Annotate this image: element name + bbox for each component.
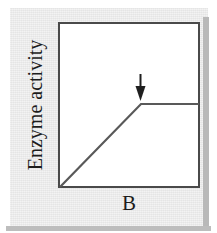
enzyme-activity-figure: Enzyme activity B: [0, 0, 217, 233]
arrow-head-icon: [136, 86, 146, 101]
y-axis-label: Enzyme activity: [25, 25, 45, 185]
enzyme-activity-curve: [60, 104, 199, 187]
breakpoint-arrow-annotation: [136, 74, 146, 101]
x-axis-label: B: [58, 193, 200, 214]
